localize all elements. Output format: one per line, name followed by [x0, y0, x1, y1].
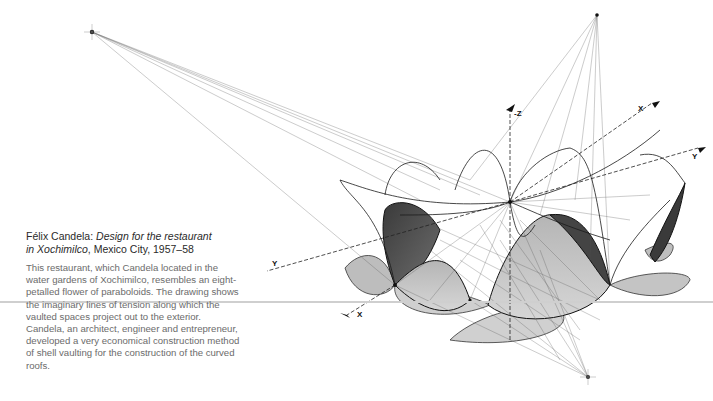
figure-caption: Félix Candela: Design for the restaurant… [26, 230, 241, 372]
axis-label-neg-z: -Z [514, 109, 522, 118]
shaded-petals [383, 183, 685, 319]
caption-body: This restaurant, which Candela located i… [26, 262, 241, 372]
caption-work-title-cont: in Xochimilco [26, 243, 88, 255]
caption-work-title: Design for the restaurant [96, 230, 212, 242]
axis-label-y-right: Y [692, 152, 698, 161]
axis-label-x-upper: X [638, 104, 644, 113]
axis-label-y-left: Y [272, 259, 278, 268]
caption-location-date: , Mexico City, 1957–58 [88, 243, 194, 255]
caption-author: Félix Candela: [26, 230, 96, 242]
caption-title: Félix Candela: Design for the restaurant… [26, 230, 241, 256]
axis-label-x-lower: X [357, 310, 363, 319]
